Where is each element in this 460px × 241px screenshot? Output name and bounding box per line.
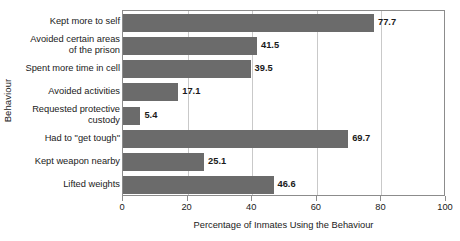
x-tick-label: 20 bbox=[181, 202, 191, 212]
x-tick bbox=[445, 196, 446, 201]
y-axis-title: Behaviour bbox=[0, 0, 16, 200]
bar bbox=[123, 107, 140, 125]
bar-value-label: 25.1 bbox=[208, 156, 226, 166]
x-tick-label: 80 bbox=[375, 202, 385, 212]
x-tick-label: 60 bbox=[311, 202, 321, 212]
x-axis-tick-labels: 020406080100 bbox=[122, 202, 445, 216]
bar bbox=[123, 130, 348, 148]
category-label: Kept more to self bbox=[18, 16, 120, 26]
x-tick bbox=[187, 196, 188, 201]
y-axis-title-text: Behaviour bbox=[3, 78, 14, 122]
x-tick-label: 40 bbox=[246, 202, 256, 212]
bar-chart: Behaviour Kept more to selfAvoided certa… bbox=[0, 0, 460, 241]
x-tick bbox=[251, 196, 252, 201]
category-label: Had to "get tough" bbox=[18, 133, 120, 143]
y-axis-category-labels: Kept more to selfAvoided certain areas o… bbox=[18, 10, 120, 196]
category-label: Lifted weights bbox=[18, 179, 120, 189]
x-tick bbox=[316, 196, 317, 201]
bar-value-label: 69.7 bbox=[352, 133, 370, 143]
bar bbox=[123, 37, 257, 55]
bar bbox=[123, 60, 251, 78]
category-label: Kept weapon nearby bbox=[18, 156, 120, 166]
gridline bbox=[317, 11, 318, 195]
category-label: Avoided certain areas of the prison bbox=[18, 34, 120, 55]
x-tick-label: 0 bbox=[119, 202, 124, 212]
bar-value-label: 77.7 bbox=[378, 17, 396, 27]
x-tick bbox=[380, 196, 381, 201]
bar-value-label: 46.6 bbox=[278, 179, 296, 189]
bar-value-label: 39.5 bbox=[255, 63, 273, 73]
x-axis-title: Percentage of Inmates Using the Behaviou… bbox=[122, 220, 445, 230]
bar bbox=[123, 176, 274, 194]
bar bbox=[123, 14, 374, 32]
x-tick bbox=[122, 196, 123, 201]
x-tick-label: 100 bbox=[437, 202, 453, 212]
category-label: Requested protective custody bbox=[18, 104, 120, 125]
gridline bbox=[381, 11, 382, 195]
bar-value-label: 41.5 bbox=[261, 40, 279, 50]
plot-area: 77.741.539.517.15.469.725.146.6 bbox=[122, 10, 445, 196]
bar bbox=[123, 83, 178, 101]
category-label: Avoided activities bbox=[18, 86, 120, 96]
bar bbox=[123, 153, 204, 171]
bar-value-label: 17.1 bbox=[182, 86, 200, 96]
category-label: Spent more time in cell bbox=[18, 63, 120, 73]
bar-value-label: 5.4 bbox=[144, 110, 157, 120]
